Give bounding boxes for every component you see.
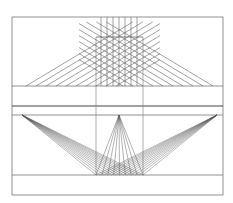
ray-right-vp [131, 115, 217, 175]
ray-right-vp [127, 115, 217, 175]
ray-left-vp [22, 115, 100, 175]
upper-isometric-panel [26, 17, 213, 86]
diagonal-line-a [56, 24, 160, 86]
diagonal-line-a [76, 36, 160, 86]
frame [12, 17, 223, 195]
perspective-diagram [0, 0, 233, 203]
ray-left-vp [22, 115, 143, 175]
ray-right-vp [143, 115, 217, 175]
diagonal-line-b [79, 36, 163, 86]
ray-right-vp [135, 115, 217, 175]
ray-right-vp [120, 115, 218, 175]
ray-left-vp [22, 115, 112, 175]
diagonal-line-a [116, 60, 160, 86]
ray-left-vp [22, 115, 123, 175]
ray-left-vp [22, 115, 131, 175]
ray-left-vp [22, 115, 116, 175]
ray-left-vp [22, 115, 104, 175]
diagonal-line-a [106, 54, 160, 86]
ray-left-vp [22, 115, 120, 175]
ray-right-vp [108, 115, 217, 175]
ray-center-vp [96, 115, 119, 175]
ray-left-vp [22, 115, 108, 175]
diagonal-line-a [96, 48, 160, 86]
ray-right-vp [123, 115, 217, 175]
ray-center-vp [119, 115, 120, 175]
ray-left-vp [22, 115, 127, 175]
diagonal-line-a [86, 42, 160, 86]
ray-left-vp [22, 115, 96, 175]
diagonal-line-b [79, 48, 143, 86]
ray-right-vp [96, 115, 217, 175]
ray-right-vp [139, 115, 217, 175]
diagonal-line-b [79, 42, 153, 86]
lower-perspective-panel [22, 115, 217, 175]
diagram-svg [0, 0, 233, 203]
ray-right-vp [112, 115, 217, 175]
